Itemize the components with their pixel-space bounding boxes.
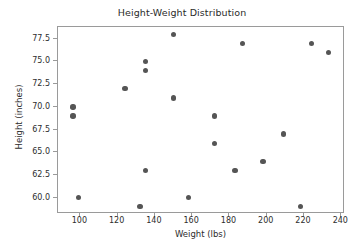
y-axis-tick-label: 60.0 bbox=[32, 192, 50, 201]
x-axis-tick-label: 240 bbox=[333, 216, 348, 225]
scatter-point bbox=[143, 59, 148, 64]
y-axis-tick-label: 65.0 bbox=[32, 147, 50, 156]
scatter-point bbox=[260, 159, 265, 164]
scatter-point bbox=[309, 41, 314, 46]
scatter-point bbox=[143, 168, 148, 173]
y-axis-tick-label: 67.5 bbox=[32, 124, 50, 133]
y-axis-tick-mark bbox=[53, 83, 57, 84]
scatter-point bbox=[240, 41, 245, 46]
scatter-point bbox=[70, 113, 75, 118]
y-axis-tick-labels: 60.062.565.067.570.072.575.077.5 bbox=[0, 0, 50, 250]
y-axis-tick-label: 75.0 bbox=[32, 56, 50, 65]
x-axis-tick-label: 120 bbox=[109, 216, 124, 225]
x-axis-tick-label: 180 bbox=[221, 216, 236, 225]
y-axis-tick-mark bbox=[53, 174, 57, 175]
x-axis-tick-label: 100 bbox=[72, 216, 87, 225]
x-axis-label: Weight (lbs) bbox=[57, 229, 344, 239]
scatter-point bbox=[281, 131, 286, 136]
y-axis-tick-label: 72.5 bbox=[32, 79, 50, 88]
scatter-point bbox=[298, 204, 303, 209]
y-axis-tick-mark bbox=[53, 106, 57, 107]
scatter-point bbox=[137, 204, 142, 209]
scatter-point bbox=[171, 32, 176, 37]
scatter-point bbox=[212, 141, 217, 146]
x-axis-tick-label: 200 bbox=[258, 216, 273, 225]
y-axis-tick-mark bbox=[53, 197, 57, 198]
scatter-point bbox=[122, 86, 127, 91]
y-axis-tick-mark bbox=[53, 129, 57, 130]
scatter-point bbox=[326, 50, 331, 55]
scatter-point bbox=[171, 95, 176, 100]
x-axis-tick-label: 140 bbox=[146, 216, 161, 225]
scatter-point bbox=[143, 68, 148, 73]
chart-title: Height-Weight Distribution bbox=[0, 7, 364, 18]
y-axis-tick-label: 62.5 bbox=[32, 169, 50, 178]
y-axis-label: Height (inches) bbox=[14, 57, 24, 177]
y-axis-tick-label: 77.5 bbox=[32, 33, 50, 42]
scatter-point bbox=[232, 168, 237, 173]
x-axis-tick-label: 220 bbox=[295, 216, 310, 225]
y-axis-tick-mark bbox=[53, 38, 57, 39]
x-axis-tick-label: 160 bbox=[184, 216, 199, 225]
chart-figure: Height-Weight Distribution 60.062.565.06… bbox=[0, 0, 364, 250]
y-axis-tick-mark bbox=[53, 60, 57, 61]
plot-area bbox=[57, 26, 344, 213]
scatter-point bbox=[186, 195, 191, 200]
y-axis-tick-label: 70.0 bbox=[32, 101, 50, 110]
y-axis-tick-mark bbox=[53, 151, 57, 152]
scatter-point bbox=[76, 195, 81, 200]
scatter-point bbox=[212, 113, 217, 118]
scatter-point bbox=[70, 104, 75, 109]
scatter-points-layer bbox=[58, 27, 343, 212]
